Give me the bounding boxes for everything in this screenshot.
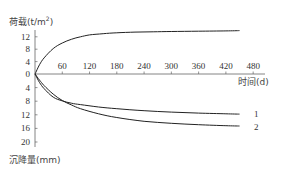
curve-1-label: 1 [254,109,259,119]
x-tick-label: 480 [246,61,260,71]
x-tick-label: 120 [83,61,97,71]
y-top-tick-label: 8 [26,44,31,54]
load-settlement-chart: 601201802403003604204800481248121620 荷载(… [0,0,281,183]
axis-tick-labels: 601201802403003604204800481248121620 [21,32,260,147]
settlement-curve-1 [35,74,240,114]
y-top-tick-label: 4 [26,57,31,67]
y-top-tick-label: 0 [26,69,31,79]
x-tick-label: 300 [165,61,179,71]
y-top-tick-label: 12 [21,32,30,42]
axis-ticks [35,37,253,142]
curve-2-label: 2 [254,122,259,132]
x-tick-label: 420 [219,61,233,71]
x-axis-title: 时间(d) [238,76,269,87]
settlement-curve-2 [35,74,240,126]
y-bottom-tick-label: 12 [21,110,30,120]
x-tick-label: 180 [110,61,124,71]
y-bottom-tick-label: 16 [21,123,31,133]
y-bottom-tick-label: 8 [26,96,31,106]
y-bottom-tick-label: 20 [21,137,31,147]
x-tick-label: 360 [192,61,206,71]
y-bottom-tick-label: 4 [26,83,31,93]
x-tick-label: 60 [58,61,68,71]
y-bottom-axis-title: 沉降量(mm) [9,154,61,165]
y-top-axis-title: 荷载(t/m2) [9,15,53,27]
x-tick-label: 240 [137,61,151,71]
